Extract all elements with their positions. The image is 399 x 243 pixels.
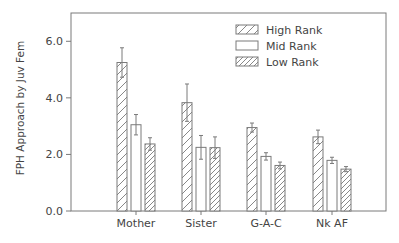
bar-mid-rank: [196, 135, 206, 211]
y-axis-title: FPH Approach by Juv Fem: [14, 41, 26, 176]
bar-chart: 0.02.04.06.0 MotherSisterG-A-CNk AF High…: [0, 0, 399, 243]
x-category-label: Sister: [185, 217, 217, 230]
y-tick-label: 4.0: [46, 92, 64, 105]
legend-item: Mid Rank: [236, 40, 317, 53]
legend-swatch: [236, 57, 258, 66]
bar-low-rank: [145, 138, 155, 211]
y-tick-label: 6.0: [46, 35, 64, 48]
legend-swatch: [236, 25, 258, 34]
y-tick-label: 0.0: [46, 205, 64, 218]
y-axis: 0.02.04.06.0: [46, 35, 72, 218]
legend-item: Low Rank: [236, 56, 319, 69]
x-category-label: G-A-C: [250, 217, 282, 230]
bar-low-rank: [275, 162, 285, 211]
bar-mid-rank: [131, 115, 141, 211]
x-axis: MotherSisterG-A-CNk AF: [117, 211, 348, 230]
bar-high-rank: [247, 123, 257, 211]
legend-label: Low Rank: [266, 56, 319, 69]
x-category-label: Nk AF: [316, 217, 348, 230]
legend-item: High Rank: [236, 24, 323, 37]
legend-label: High Rank: [266, 24, 323, 37]
bar-high-rank: [313, 130, 323, 211]
legend-label: Mid Rank: [266, 40, 317, 53]
legend: High RankMid RankLow Rank: [236, 24, 323, 69]
legend-swatch: [236, 41, 258, 50]
y-tick-label: 2.0: [46, 148, 64, 161]
bars: [117, 48, 351, 211]
bar-low-rank: [210, 137, 220, 211]
bar-low-rank: [341, 167, 351, 211]
bar-mid-rank: [327, 157, 337, 211]
bar-high-rank: [182, 84, 192, 211]
bar-mid-rank: [261, 153, 271, 211]
x-category-label: Mother: [117, 217, 156, 230]
bar-high-rank: [117, 48, 127, 211]
